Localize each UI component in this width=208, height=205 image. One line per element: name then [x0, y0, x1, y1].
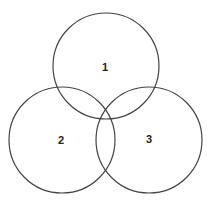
- venn-circles: [0, 0, 208, 205]
- venn-diagram: 1 2 3: [0, 0, 208, 205]
- circle-3-label: 3: [146, 134, 152, 145]
- circle-1-label: 1: [102, 62, 108, 73]
- circle-2-label: 2: [58, 135, 64, 146]
